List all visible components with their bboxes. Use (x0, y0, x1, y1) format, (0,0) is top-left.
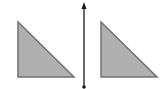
right-triangle (101, 22, 157, 77)
arrowhead-icon (82, 2, 87, 9)
left-triangle (18, 22, 74, 77)
diagram-canvas (0, 0, 166, 89)
endpoint-dot-icon (82, 85, 86, 89)
diagram-svg (0, 0, 166, 89)
